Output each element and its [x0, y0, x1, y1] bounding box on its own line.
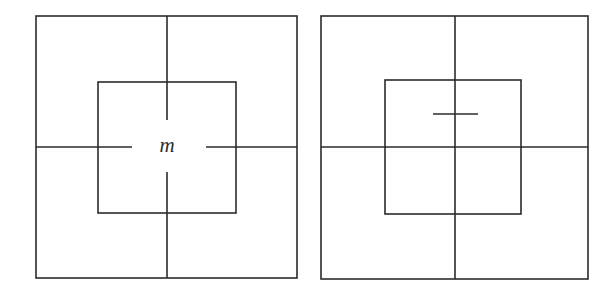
figure-container: m [0, 0, 613, 293]
right-diagram [321, 16, 588, 279]
figure-canvas: m [0, 0, 613, 293]
left-diagram: m [36, 16, 297, 278]
mass-label-m: m [159, 133, 174, 157]
